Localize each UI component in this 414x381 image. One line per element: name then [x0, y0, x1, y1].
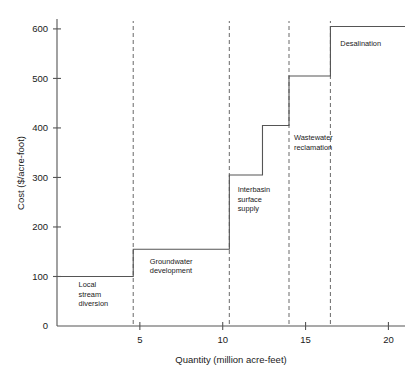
x-tick-label-10: 10	[217, 334, 228, 345]
x-tick-label-5: 5	[137, 334, 142, 345]
y-axis: 0100200300400500600 Cost ($/acre-foot)	[15, 19, 61, 331]
y-tick-label-100: 100	[32, 271, 48, 282]
segment-label-line: Interbasin	[238, 185, 270, 194]
segment-dividers	[133, 21, 330, 324]
y-axis-title: Cost ($/acre-foot)	[15, 136, 26, 210]
segment-label-3: Interbasinsurfacesupply	[238, 185, 270, 212]
segment-label-line: Desalination	[340, 39, 381, 48]
y-axis-tick-labels: 0100200300400500600	[32, 23, 48, 331]
segment-label-5: Desalination	[340, 39, 381, 48]
step-supply-curve-line	[57, 26, 405, 276]
segment-label-line: Local	[79, 280, 97, 289]
segment-label-2: Groundwaterdevelopment	[150, 257, 193, 275]
y-tick-label-0: 0	[43, 320, 48, 331]
step-chart-figure: 0100200300400500600 Cost ($/acre-foot) 5…	[0, 0, 414, 381]
segment-label-4: Wastewaterreclamation	[294, 133, 333, 151]
segment-label-line: Wastewater	[294, 133, 333, 142]
segment-label-line: reclamation	[294, 143, 332, 152]
chart-canvas: 0100200300400500600 Cost ($/acre-foot) 5…	[0, 0, 414, 381]
x-tick-label-20: 20	[383, 334, 394, 345]
segment-label-line: supply	[238, 204, 260, 213]
y-tick-label-300: 300	[32, 172, 48, 183]
segment-label-1: Localstreamdiversion	[79, 280, 109, 307]
y-tick-label-600: 600	[32, 23, 48, 34]
segment-label-line: stream	[79, 290, 102, 299]
y-tick-label-400: 400	[32, 122, 48, 133]
x-axis: 5101520 Quantity (million acre-feet)	[57, 322, 405, 365]
segment-label-line: diversion	[79, 299, 109, 308]
y-tick-label-200: 200	[32, 221, 48, 232]
segment-label-line: surface	[238, 195, 262, 204]
segment-label-line: development	[150, 266, 192, 275]
x-axis-tick-labels: 5101520	[137, 334, 394, 345]
segment-label-line: Groundwater	[150, 257, 193, 266]
x-tick-label-15: 15	[300, 334, 311, 345]
y-tick-label-500: 500	[32, 73, 48, 84]
x-axis-title: Quantity (million acre-feet)	[175, 354, 286, 365]
